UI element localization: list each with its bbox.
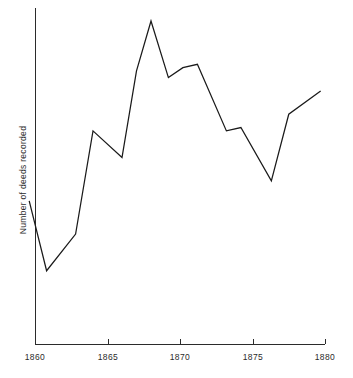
chart-container: 1860 1865 1870 1875 1880 Number of deeds… bbox=[0, 0, 353, 378]
x-tick-label-3: 1875 bbox=[243, 352, 264, 362]
x-tick-label-4: 1880 bbox=[315, 352, 336, 362]
chart-background bbox=[0, 0, 353, 378]
x-tick-label-1: 1865 bbox=[98, 352, 119, 362]
y-axis-title: Number of deeds recorded bbox=[18, 126, 28, 234]
line-chart: 1860 1865 1870 1875 1880 Number of deeds… bbox=[0, 0, 353, 378]
x-tick-label-0: 1860 bbox=[25, 352, 46, 362]
x-tick-label-2: 1870 bbox=[170, 352, 191, 362]
